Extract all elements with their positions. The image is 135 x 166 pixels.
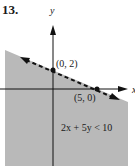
point-0-2	[51, 68, 56, 73]
inequality-label: 2x + 5y < 10	[61, 122, 112, 133]
point-label-5-0: (5, 0)	[74, 92, 96, 104]
x-axis-label: x	[131, 84, 135, 95]
y-axis-arrow-icon	[50, 25, 56, 35]
inequality-graph: x y (0, 2) (5, 0) 2x + 5y < 10	[0, 0, 135, 166]
point-label-0-2: (0, 2)	[56, 58, 78, 70]
x-axis-arrow-icon	[118, 86, 128, 92]
boundary-arrow-right-icon	[109, 93, 120, 100]
point-5-0	[95, 87, 100, 92]
y-axis-label: y	[49, 5, 55, 16]
